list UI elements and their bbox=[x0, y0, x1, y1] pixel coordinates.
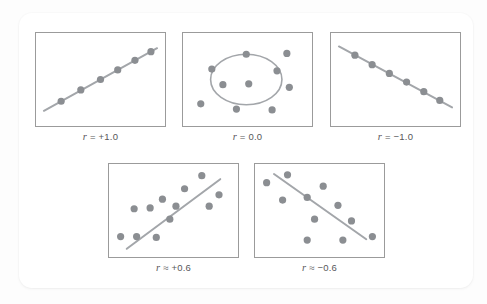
data-point bbox=[283, 50, 290, 57]
data-point bbox=[147, 204, 154, 211]
data-point bbox=[420, 88, 427, 95]
scatter-panel-moderate-negative: r ≈ −0.6 bbox=[254, 163, 385, 276]
data-point bbox=[198, 172, 205, 179]
panel-caption: r ≈ −0.6 bbox=[254, 262, 385, 273]
scatter-panel-moderate-positive: r ≈ +0.6 bbox=[108, 163, 239, 276]
caption-value: +0.6 bbox=[171, 262, 191, 273]
caption-value: 0.0 bbox=[248, 131, 262, 142]
data-point bbox=[215, 191, 222, 198]
data-point bbox=[311, 216, 318, 223]
data-point bbox=[284, 171, 291, 178]
data-point bbox=[114, 66, 121, 73]
data-point bbox=[131, 57, 138, 64]
data-point bbox=[206, 203, 213, 210]
data-point bbox=[172, 203, 179, 210]
trend-line bbox=[274, 174, 366, 239]
caption-value: −1.0 bbox=[394, 131, 414, 142]
data-point bbox=[97, 76, 104, 83]
scatter-panel-perfect-positive: r = +1.0 bbox=[35, 32, 166, 145]
caption-variable: r bbox=[156, 262, 160, 273]
caption-variable: r bbox=[378, 131, 382, 142]
caption-relation: = bbox=[385, 131, 391, 142]
data-point bbox=[403, 79, 410, 86]
panel-caption: r = +1.0 bbox=[35, 131, 166, 142]
data-point bbox=[117, 233, 124, 240]
data-point bbox=[286, 84, 293, 91]
data-point bbox=[279, 196, 286, 203]
data-point bbox=[269, 106, 276, 113]
data-point bbox=[233, 105, 240, 112]
caption-variable: r bbox=[83, 131, 87, 142]
scatter-panel-zero-correlation: r = 0.0 bbox=[182, 32, 313, 145]
panel-caption: r = 0.0 bbox=[182, 131, 313, 142]
data-point bbox=[133, 233, 140, 240]
data-point bbox=[348, 217, 355, 224]
data-point bbox=[77, 86, 84, 93]
data-point bbox=[339, 236, 346, 243]
plot-canvas bbox=[330, 32, 461, 127]
data-point bbox=[273, 67, 280, 74]
annotation-circle bbox=[211, 54, 282, 104]
data-point bbox=[166, 216, 173, 223]
caption-relation: = bbox=[90, 131, 96, 142]
data-point bbox=[153, 234, 160, 241]
data-point bbox=[159, 196, 166, 203]
panel-caption: r = −1.0 bbox=[330, 131, 461, 142]
data-point bbox=[243, 51, 250, 58]
data-point bbox=[208, 65, 215, 72]
plot-canvas bbox=[35, 32, 166, 127]
data-point bbox=[147, 48, 154, 55]
scatter-panel-perfect-negative: r = −1.0 bbox=[330, 32, 461, 145]
data-point bbox=[263, 179, 270, 186]
caption-value: −0.6 bbox=[317, 262, 337, 273]
caption-variable: r bbox=[302, 262, 306, 273]
data-point bbox=[58, 98, 65, 105]
data-point bbox=[334, 202, 341, 209]
caption-value: +1.0 bbox=[99, 131, 119, 142]
data-point bbox=[131, 205, 138, 212]
data-point bbox=[351, 52, 358, 59]
caption-relation: = bbox=[240, 131, 246, 142]
plot-canvas bbox=[182, 32, 313, 127]
data-point bbox=[369, 61, 376, 68]
caption-relation: ≈ bbox=[163, 262, 168, 273]
caption-variable: r bbox=[233, 131, 237, 142]
data-point bbox=[304, 194, 311, 201]
trend-line bbox=[127, 179, 220, 249]
caption-relation: ≈ bbox=[309, 262, 314, 273]
data-point bbox=[304, 236, 311, 243]
data-point bbox=[245, 80, 252, 87]
plot-canvas bbox=[254, 163, 385, 258]
data-point bbox=[320, 183, 327, 190]
panel-caption: r ≈ +0.6 bbox=[108, 262, 239, 273]
plot-canvas bbox=[108, 163, 239, 258]
data-point bbox=[197, 100, 204, 107]
data-point bbox=[181, 185, 188, 192]
correlation-figure-card: r = +1.0 r = 0.0 r = −1.0 r ≈ +0.6 bbox=[19, 13, 473, 288]
data-point bbox=[219, 81, 226, 88]
data-point bbox=[436, 97, 443, 104]
data-point bbox=[386, 70, 393, 77]
data-point bbox=[369, 233, 376, 240]
